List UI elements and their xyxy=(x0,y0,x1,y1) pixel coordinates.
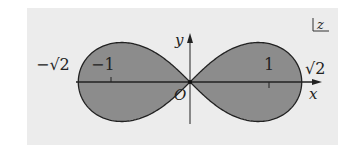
plane-label: z xyxy=(316,17,324,32)
x-axis-label: x xyxy=(309,85,318,103)
tick-label-1: 1 xyxy=(264,55,274,74)
origin-point xyxy=(188,80,192,84)
y-axis-arrow-icon xyxy=(187,33,193,43)
origin-label: O xyxy=(174,86,186,104)
y-axis-label: y xyxy=(174,31,184,49)
tick-label-minus-1: −1 xyxy=(91,55,115,74)
lemniscate-figure: −√2 −1 1 √2 y x O z xyxy=(0,0,348,164)
tick-label-minus-sqrt2: −√2 xyxy=(36,55,70,74)
tick-label-sqrt2: √2 xyxy=(305,59,325,78)
